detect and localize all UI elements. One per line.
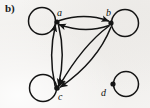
self-loop-d[interactable]	[114, 72, 139, 97]
edge-b-to-c-lower[interactable]	[61, 27, 112, 87]
vertex-dot-b[interactable]	[108, 20, 113, 25]
vertex-dot-d[interactable]	[110, 81, 115, 86]
self-loop-b[interactable]	[112, 10, 139, 37]
vertex-label-a: a	[57, 8, 62, 18]
self-loop-c[interactable]	[30, 75, 57, 102]
edge-group	[52, 17, 111, 87]
vertex-label-d: d	[101, 88, 106, 98]
vertex-label-c: c	[58, 92, 62, 102]
edge-b-to-c-upper[interactable]	[60, 26, 110, 86]
edge-c-to-a[interactable]	[52, 25, 56, 86]
figure-panel-b: b) a b c d	[0, 0, 150, 108]
vertex-dot-c[interactable]	[54, 85, 60, 91]
vertex-dot-a[interactable]	[54, 19, 59, 24]
self-loop-a[interactable]	[29, 8, 56, 35]
panel-label: b)	[5, 3, 15, 14]
edge-a-to-c[interactable]	[59, 25, 63, 86]
self-loop-group	[29, 8, 139, 102]
vertex-label-b: b	[106, 8, 111, 18]
directed-graph-diagram	[0, 0, 150, 108]
edge-b-to-a[interactable]	[59, 25, 109, 30]
edge-a-to-b[interactable]	[60, 17, 109, 21]
